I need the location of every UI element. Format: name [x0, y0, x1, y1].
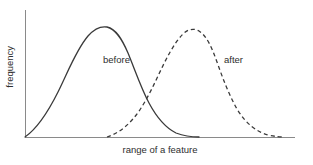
- curve-after: [107, 29, 283, 137]
- y-axis-label: frequency: [5, 39, 15, 95]
- curve-before: [25, 27, 199, 137]
- series-label-after: after: [224, 55, 243, 65]
- distribution-shift-figure: before after frequency range of a featur…: [0, 0, 313, 165]
- plot-area: [0, 0, 313, 165]
- series-label-before: before: [103, 55, 130, 65]
- x-axis-label: range of a feature: [25, 145, 295, 155]
